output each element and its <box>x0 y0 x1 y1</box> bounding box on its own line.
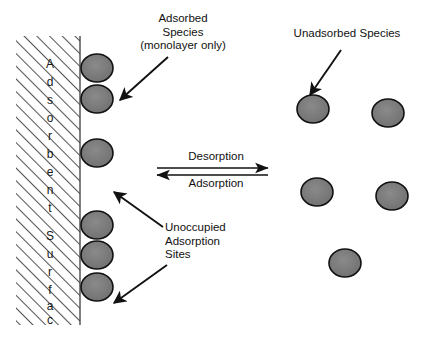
adsorbed-particle <box>81 85 113 113</box>
unoccupied-adsorption-sites-label: Unoccupied Adsorption Sites <box>165 221 275 262</box>
surface-letter: r <box>43 130 57 142</box>
surface-letter: c <box>43 314 57 326</box>
unadsorbed-particle <box>372 99 404 127</box>
adsorbed-particle <box>81 241 113 269</box>
adsorption-label: Adsorption <box>168 177 264 191</box>
adsorbed-species-pointer-icon <box>120 57 168 100</box>
surface-letter: n <box>43 184 57 196</box>
adsorption-diagram: A d s o r b e n t S u r f a c Adsorbed S… <box>0 0 434 345</box>
surface-letter: e <box>43 166 57 178</box>
adsorbed-particle <box>81 211 113 239</box>
surface-letter: a <box>43 300 57 312</box>
surface-letter: s <box>43 94 57 106</box>
surface-letter: r <box>43 266 57 278</box>
surface-letter: d <box>43 76 57 88</box>
adsorbed-particle <box>81 54 113 82</box>
adsorbed-species-label: Adsorbed Species (monolayer only) <box>112 12 254 53</box>
unoccupied-lower-pointer-icon <box>114 265 167 303</box>
unadsorbed-particle <box>301 178 333 206</box>
adsorbed-particle-group <box>81 54 113 301</box>
surface-letter: o <box>43 112 57 124</box>
surface-letter: t <box>43 202 57 214</box>
surface-letter: u <box>43 248 57 260</box>
unadsorbed-particle <box>329 249 361 277</box>
unadsorbed-particle-group <box>297 95 408 277</box>
unadsorbed-particle <box>297 95 329 123</box>
equilibrium-arrows <box>157 168 268 175</box>
unoccupied-upper-pointer-icon <box>114 192 163 227</box>
desorption-label: Desorption <box>168 150 264 164</box>
unadsorbed-species-pointer-icon <box>310 50 341 95</box>
surface-letter: A <box>43 58 57 70</box>
unadsorbed-particle <box>376 182 408 210</box>
adsorbed-particle <box>81 139 113 167</box>
surface-letter: b <box>43 148 57 160</box>
surface-letter: f <box>43 284 57 296</box>
adsorbed-particle <box>81 273 113 301</box>
surface-letter: S <box>43 230 57 242</box>
unadsorbed-species-label: Unadsorbed Species <box>272 27 422 41</box>
